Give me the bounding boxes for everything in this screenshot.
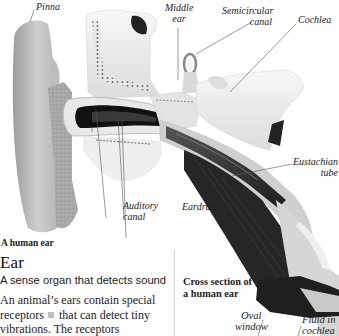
label-fluid-in-cochlea: Fluid in cochlea: [302, 314, 336, 336]
label-auditory-line2: canal: [123, 211, 158, 222]
label-middle-ear-line1: Middle: [165, 2, 193, 13]
label-fluid-line2: cochlea: [302, 325, 336, 336]
label-pinna: Pinna: [36, 1, 60, 12]
entry-subtitle: A sense organ that detects sound: [0, 274, 166, 286]
label-oval-window: Oval window: [235, 310, 268, 332]
label-auditory-line1: Auditory: [123, 200, 158, 211]
label-eustachian-line1: Eustachian: [288, 156, 338, 167]
label-semicircular-line1: Semicircular: [222, 5, 272, 16]
label-oval-window-line2: window: [235, 321, 268, 332]
label-cochlea-text: Cochlea: [298, 14, 331, 25]
cross-section-title: Cross section of a human ear: [183, 276, 253, 299]
label-semicircular-line2: canal: [222, 16, 272, 27]
entry-title: Ear: [0, 253, 24, 273]
label-eardrum: Eardrum: [182, 201, 218, 212]
entry-body: An animal’s ears contain special recepto…: [0, 293, 172, 336]
label-eustachian-tube: Eustachian tube: [288, 156, 338, 178]
label-pinna-text: Pinna: [36, 1, 60, 12]
label-eustachian-line2: tube: [288, 167, 338, 178]
illustration-caption: A human ear: [1, 238, 54, 248]
label-oval-window-line1: Oval: [235, 310, 268, 321]
label-auditory-canal: Auditory canal: [123, 200, 158, 222]
label-semicircular-canal: Semicircular canal: [222, 5, 272, 27]
label-cochlea: Cochlea: [298, 14, 331, 25]
label-middle-ear: Middle ear: [165, 2, 193, 24]
label-eardrum-text: Eardrum: [182, 201, 218, 212]
column-divider: [174, 250, 175, 336]
cross-reference-square-icon: [48, 312, 54, 318]
label-fluid-line1: Fluid in: [302, 314, 336, 325]
label-middle-ear-line2: ear: [165, 13, 193, 24]
